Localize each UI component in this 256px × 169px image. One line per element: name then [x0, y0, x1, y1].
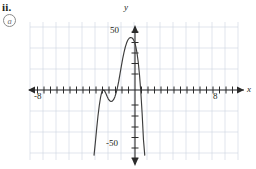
x-axis-title: x	[247, 84, 251, 94]
coordinate-plane	[0, 0, 256, 169]
y-axis-arrow-down-icon	[132, 158, 139, 166]
figure-root: ii. a	[0, 0, 256, 169]
graph-canvas: y x 50 -50 -8 8	[0, 0, 256, 169]
y-tick-label-neg50: -50	[106, 138, 118, 148]
x-tick-label-neg8: -8	[34, 91, 42, 101]
x-axis-arrow-right-icon	[237, 87, 244, 94]
y-tick-label-50: 50	[110, 25, 119, 35]
y-axis-title: y	[124, 2, 128, 12]
x-tick-label-8: 8	[213, 91, 218, 101]
